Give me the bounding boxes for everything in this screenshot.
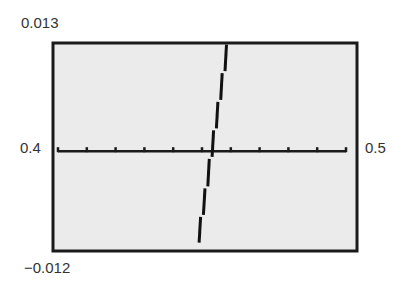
curve-segment	[216, 102, 218, 129]
plot-frame	[53, 43, 357, 251]
curve-segment	[199, 217, 201, 243]
plot-area	[0, 0, 393, 289]
curve-segment	[212, 130, 214, 157]
curve-segment	[203, 188, 205, 215]
curve-segment	[221, 73, 223, 100]
curve-segment	[208, 159, 210, 186]
curve-segment	[225, 45, 227, 71]
